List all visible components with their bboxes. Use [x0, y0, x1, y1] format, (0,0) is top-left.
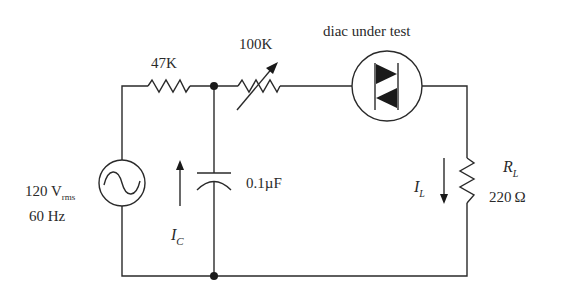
- ac-source: [99, 160, 145, 206]
- current-il-arrow-head-icon: [440, 194, 448, 204]
- variable-resistor-100k: [237, 62, 280, 110]
- circuit-diagram: 47K 100K diac under test 120 Vrms 60 Hz …: [0, 0, 561, 303]
- sine-wave-icon: [104, 172, 140, 194]
- source-voltage-label: 120 Vrms: [25, 183, 76, 202]
- resistor-47k-label: 47K: [151, 55, 177, 71]
- load-resistor: [460, 158, 474, 203]
- junction-node-top: [210, 82, 218, 90]
- current-ic-label: IC: [170, 226, 184, 247]
- capacitor-label: 0.1µF: [246, 175, 282, 191]
- diac-symbol: [352, 51, 422, 121]
- load-resistor-value: 220 Ω: [489, 189, 526, 205]
- source-frequency-label: 60 Hz: [29, 208, 66, 224]
- diac-triangle-reverse-icon: [376, 88, 397, 108]
- current-ic-arrow-head-icon: [176, 160, 184, 170]
- current-il-label: IL: [413, 178, 425, 199]
- wire-diac-right: [422, 86, 467, 158]
- resistor-47k: [148, 80, 190, 92]
- junction-node-bottom: [210, 272, 218, 280]
- load-resistor-name: RL: [502, 158, 519, 179]
- diac-triangle-forward-icon: [376, 64, 397, 84]
- arrow-head-icon: [266, 62, 278, 74]
- resistor-100k-label: 100K: [239, 36, 273, 52]
- diac-label: diac under test: [323, 23, 411, 39]
- wire-left-top: [122, 86, 148, 160]
